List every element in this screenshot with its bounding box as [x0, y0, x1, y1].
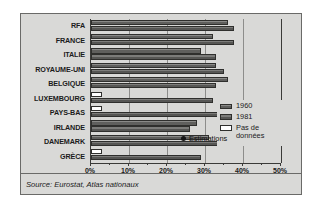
category-label-pays-bas: PAYS-BAS [21, 106, 89, 119]
chart-figure: RFAFRANCEITALIEROYAUME-UNIBELGIQUELUXEMB… [20, 13, 302, 195]
legend-item-series-1981: 1981 [220, 113, 298, 121]
bar-group-rfa [91, 19, 281, 32]
minor-tick-45 [261, 163, 262, 165]
bar-1981-belgique [91, 83, 216, 88]
bar-1960-italie [91, 48, 201, 53]
legend-label: 1960 [236, 102, 252, 110]
tick-0 [90, 163, 91, 166]
bar-1981-gr-ce [91, 155, 201, 160]
tick-20 [166, 163, 167, 166]
category-label-danemark: DANEMARK [21, 135, 89, 148]
bar-1960-luxembourg [91, 92, 102, 97]
minor-tick-15 [147, 163, 148, 165]
category-label-italie: ITALIE [21, 48, 89, 61]
category-label-rfa: RFA [21, 19, 89, 32]
bar-1960-danemark [91, 135, 209, 140]
bar-1981-france [91, 40, 234, 45]
tick-30 [204, 163, 205, 166]
category-label-irlande: IRLANDE [21, 121, 89, 134]
bar-1981-royaume-uni [91, 69, 224, 74]
source-text: Source: Eurostat, Atlas nationaux [21, 180, 138, 189]
minor-tick-5 [109, 163, 110, 165]
legend-label: Pas de données [236, 124, 264, 141]
bar-1960-gr-ce [91, 149, 102, 154]
chart-legend: 19601981Pas de données [217, 100, 300, 146]
legend-swatch-icon-no-data [220, 125, 232, 130]
minor-tick-35 [223, 163, 224, 165]
bar-1981-italie [91, 54, 216, 59]
category-label-luxembourg: LUXEMBOURG [21, 92, 89, 105]
bar-1960-pays-bas [91, 106, 102, 111]
chart-plot-area: RFAFRANCEITALIEROYAUME-UNIBELGIQUELUXEMB… [21, 14, 303, 174]
category-label-france: FRANCE [21, 34, 89, 47]
bar-group-italie [91, 48, 281, 61]
legend-item-series-1960: 1960 [220, 102, 298, 110]
bar-1981-rfa [91, 26, 234, 31]
bar-group-gr-ce [91, 149, 281, 162]
bar-1960-rfa [91, 20, 228, 25]
bar-1960-irlande [91, 120, 197, 125]
bar-group-belgique [91, 77, 281, 90]
source-footer: Source: Eurostat, Atlas nationaux [21, 173, 301, 194]
category-label-royaume-uni: ROYAUME-UNI [21, 63, 89, 76]
bar-1981-irlande [91, 126, 190, 131]
legend-swatch-icon-series-1960 [220, 104, 232, 109]
category-label-gr-ce: GRÈCE [21, 150, 89, 163]
tick-50 [280, 163, 281, 166]
tick-10 [128, 163, 129, 166]
bar-1960-royaume-uni [91, 63, 216, 68]
bar-1960-belgique [91, 77, 228, 82]
bar-1981-luxembourg [91, 98, 213, 103]
category-label-belgique: BELGIQUE [21, 77, 89, 90]
legend-swatch-icon-series-1981 [220, 114, 232, 119]
legend-item-no-data: Pas de données [220, 124, 298, 141]
bar-1960-france [91, 34, 213, 39]
bar-group-france [91, 33, 281, 46]
category-axis: RFAFRANCEITALIEROYAUME-UNIBELGIQUELUXEMB… [21, 19, 89, 163]
legend-label: 1981 [236, 113, 252, 121]
bar-group-royaume-uni [91, 62, 281, 75]
tick-40 [242, 163, 243, 166]
minor-tick-25 [185, 163, 186, 165]
bar-1981-pays-bas [91, 112, 220, 117]
